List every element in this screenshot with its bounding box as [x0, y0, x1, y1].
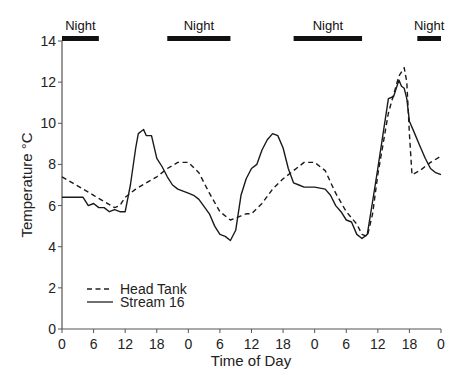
y-tick-label: 6 — [48, 198, 56, 214]
x-tick-label: 6 — [216, 336, 224, 352]
legend: Head Tank Stream 16 — [87, 281, 188, 310]
night-label: Night — [184, 18, 215, 33]
y-axis-title: Temperature °C — [18, 132, 35, 237]
x-tick-label: 18 — [149, 336, 165, 352]
night-bar — [62, 36, 99, 41]
legend-stream-label: Stream 16 — [120, 294, 185, 310]
x-tick-label: 0 — [311, 336, 319, 352]
night-bar — [167, 36, 230, 41]
y-tick-label: 0 — [48, 321, 56, 337]
y-tick-label: 12 — [40, 74, 56, 90]
x-tick-label: 12 — [370, 336, 386, 352]
x-tick-label: 12 — [244, 336, 260, 352]
y-tick-label: 8 — [48, 156, 56, 172]
x-tick-label: 0 — [184, 336, 192, 352]
x-axis-ticks: 0612180612180612180 — [58, 329, 445, 352]
night-label: Night — [313, 18, 344, 33]
x-tick-label: 18 — [275, 336, 291, 352]
axes — [62, 41, 441, 329]
y-tick-label: 10 — [40, 115, 56, 131]
stream-16-line — [62, 80, 441, 240]
y-tick-label: 14 — [40, 33, 56, 49]
night-period-bars: NightNightNightNight — [62, 18, 445, 41]
y-tick-label: 2 — [48, 280, 56, 296]
data-series — [62, 68, 441, 241]
x-axis-title: Time of Day — [211, 352, 292, 369]
night-label: Night — [65, 18, 96, 33]
x-tick-label: 18 — [402, 336, 418, 352]
x-tick-label: 6 — [90, 336, 98, 352]
y-tick-label: 4 — [48, 239, 56, 255]
y-axis-ticks: 02468101214 — [40, 33, 62, 337]
x-tick-label: 6 — [342, 336, 350, 352]
x-tick-label: 0 — [58, 336, 66, 352]
temperature-chart: NightNightNightNight 02468101214 0612180… — [0, 0, 469, 386]
x-tick-label: 12 — [117, 336, 133, 352]
night-bar — [417, 36, 441, 41]
night-bar — [294, 36, 362, 41]
x-tick-label: 0 — [437, 336, 445, 352]
night-label: Night — [414, 18, 445, 33]
